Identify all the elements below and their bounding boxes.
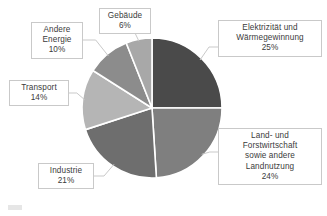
callout-leader-line [94,164,114,176]
callout-leader-line [200,47,218,60]
callout-line: Industrie [42,166,90,176]
callout-value: 6% [103,21,147,31]
callout-line: Landnutzung [222,162,318,172]
callout-value: 24% [222,172,318,182]
pie-slice [152,108,222,178]
callout-gebaeude: Gebäude 6% [99,8,151,34]
page-artifact [8,205,22,210]
callout-line: Elektrizität und [222,23,318,33]
callout-line: Wärmegewinnung [222,33,318,43]
callout-line: Transport [13,83,65,93]
pie-chart-figure: Elektrizität und Wärmegewinnung 25% Land… [0,0,327,216]
callout-line: Gebäude [103,11,147,21]
callout-value: 25% [222,43,318,53]
callout-land-und-forstwirtschaft: Land- und Forstwirtschaft sowie andere L… [218,128,322,185]
callout-line: Land- und [222,131,318,141]
callout-transport: Transport 14% [9,80,69,106]
callout-elektrizitaet-und-waermegewinnung: Elektrizität und Wärmegewinnung 25% [218,20,322,57]
callout-value: 10% [35,45,79,55]
callout-andere-energie: Andere Energie 10% [31,22,83,59]
callout-line: sowie andere [222,151,318,161]
callout-value: 21% [42,176,90,186]
pie-slice [152,38,222,108]
callout-line: Andere [35,25,79,35]
callout-line: Energie [35,35,79,45]
callout-leader-line [83,40,108,56]
callout-value: 14% [13,93,65,103]
callout-industrie: Industrie 21% [38,163,94,189]
callout-line: Forstwirtschaft [222,141,318,151]
